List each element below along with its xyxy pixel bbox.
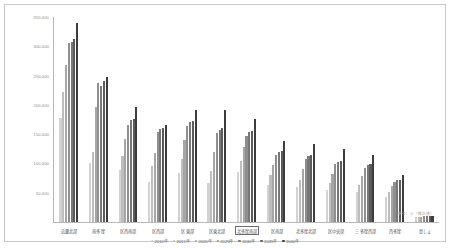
bar[interactable] [97, 83, 99, 222]
bar[interactable] [269, 175, 271, 222]
bar[interactable] [243, 147, 245, 222]
bar[interactable] [329, 183, 331, 222]
bar[interactable] [106, 77, 108, 222]
bar[interactable] [130, 120, 132, 222]
bar[interactable] [216, 133, 218, 222]
bar[interactable] [420, 217, 422, 222]
x-axis-category-label[interactable]: 島しょ [418, 227, 432, 234]
bar[interactable] [65, 65, 67, 222]
bar[interactable] [95, 107, 97, 222]
bar[interactable] [151, 166, 153, 222]
bar[interactable] [429, 216, 431, 222]
bar[interactable] [283, 141, 285, 222]
bar[interactable] [224, 110, 226, 222]
bar[interactable] [251, 131, 253, 222]
bar[interactable] [305, 159, 307, 222]
bar[interactable] [296, 187, 298, 222]
bar[interactable] [367, 165, 369, 222]
bar[interactable] [73, 39, 75, 222]
bar[interactable] [418, 217, 420, 222]
bar[interactable] [157, 132, 159, 222]
bar[interactable] [307, 156, 309, 222]
x-axis-category-label[interactable]: 北多摩北部 [295, 227, 318, 234]
bar[interactable] [100, 86, 102, 222]
bar[interactable] [358, 185, 360, 222]
bar[interactable] [369, 164, 371, 222]
bar[interactable] [337, 162, 339, 222]
bar[interactable] [361, 176, 363, 222]
bar[interactable] [71, 42, 73, 222]
bar[interactable] [186, 126, 188, 222]
bar[interactable] [127, 125, 129, 222]
bar[interactable] [154, 153, 156, 222]
bar[interactable] [364, 168, 366, 222]
bar[interactable] [356, 192, 358, 222]
bar[interactable] [426, 216, 428, 222]
bar[interactable] [195, 110, 197, 222]
x-axis-category-label[interactable]: 区東北部 [208, 227, 226, 234]
bar[interactable] [124, 139, 126, 222]
bar[interactable] [121, 156, 123, 222]
bar[interactable] [178, 173, 180, 222]
bar[interactable] [313, 144, 315, 222]
bar[interactable] [89, 163, 91, 222]
bar[interactable] [431, 216, 433, 222]
bar[interactable] [334, 164, 336, 222]
x-axis-category-label[interactable]: 南多摩 [91, 227, 105, 234]
bar[interactable] [281, 151, 283, 222]
bar[interactable] [372, 155, 374, 222]
bar[interactable] [192, 121, 194, 222]
bar[interactable] [340, 161, 342, 223]
legend-item[interactable]: 2015年 [173, 238, 190, 244]
bar[interactable] [393, 182, 395, 222]
legend-item[interactable]: 2025年 [217, 238, 234, 244]
x-axis-category-label[interactable]: 区東部 [180, 227, 194, 234]
bar[interactable] [219, 130, 221, 222]
x-axis-category-label[interactable]: 区西南部 [119, 227, 137, 234]
bar[interactable] [245, 136, 247, 222]
bar[interactable] [385, 197, 387, 222]
bar[interactable] [240, 161, 242, 222]
x-axis-category-label[interactable]: 区南部 [270, 227, 284, 234]
legend-item[interactable]: 2035年 [260, 238, 277, 244]
bar[interactable] [210, 171, 212, 222]
bar[interactable] [213, 152, 215, 222]
bar[interactable] [159, 129, 161, 222]
bar[interactable] [248, 132, 250, 222]
bar[interactable] [62, 92, 64, 222]
bar[interactable] [272, 165, 274, 222]
bar[interactable] [237, 172, 239, 222]
x-axis-category-label[interactable]: 北多摩南部 [235, 226, 260, 235]
bar[interactable] [254, 119, 256, 222]
bar[interactable] [103, 81, 105, 222]
bar[interactable] [59, 118, 61, 222]
x-axis-category-label[interactable]: 近畿北部 [60, 227, 78, 234]
bar[interactable] [133, 119, 135, 222]
legend-item[interactable]: 2020年 [195, 238, 212, 244]
bar[interactable] [162, 128, 164, 222]
bar[interactable] [135, 107, 137, 222]
bar[interactable] [415, 217, 417, 222]
legend-item[interactable]: 2040年 [282, 238, 299, 244]
bar[interactable] [68, 43, 70, 222]
legend-item[interactable]: 2010年 [151, 238, 168, 244]
bar[interactable] [76, 23, 78, 222]
x-axis-category-label[interactable]: 区西部 [151, 227, 165, 234]
bar[interactable] [275, 155, 277, 222]
x-axis-category-label[interactable]: 三多摩西部 [354, 227, 377, 234]
bar[interactable] [391, 186, 393, 222]
legend-item[interactable]: 2030年 [238, 238, 255, 244]
bar[interactable] [119, 170, 121, 222]
bar[interactable] [189, 122, 191, 222]
bar[interactable] [278, 152, 280, 222]
bar[interactable] [221, 128, 223, 222]
bar[interactable] [331, 174, 333, 222]
x-axis-category-label[interactable]: 区中央部 [327, 227, 345, 234]
bar[interactable] [310, 155, 312, 222]
bar[interactable] [267, 185, 269, 222]
bar[interactable] [302, 169, 304, 222]
bar[interactable] [148, 182, 150, 222]
bar[interactable] [423, 216, 425, 222]
bar[interactable] [92, 152, 94, 222]
bar[interactable] [183, 140, 185, 222]
